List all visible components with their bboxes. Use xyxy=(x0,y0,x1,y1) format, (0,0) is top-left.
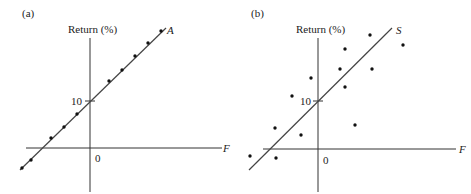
data-point xyxy=(20,166,23,169)
data-point xyxy=(49,136,52,139)
data-point xyxy=(401,43,404,46)
data-point xyxy=(368,33,371,36)
data-point xyxy=(159,29,162,32)
chart-canvas: (a) Return (%) 10 0 F A (b) Return (%) 1… xyxy=(0,0,471,194)
panel-a-ytick-label: 10 xyxy=(71,95,83,107)
data-point xyxy=(107,79,110,82)
panel-a-fit-line xyxy=(20,28,166,170)
data-point xyxy=(75,112,78,115)
data-point xyxy=(133,54,136,57)
data-point xyxy=(290,94,293,97)
data-point xyxy=(146,41,149,44)
data-point xyxy=(309,76,312,79)
data-point xyxy=(343,47,346,50)
data-point xyxy=(299,133,302,136)
data-point xyxy=(353,123,356,126)
panel-b-origin-label: 0 xyxy=(323,154,329,166)
panel-a-line-label: A xyxy=(166,24,174,36)
data-point xyxy=(120,68,123,71)
panel-b-ylabel: Return (%) xyxy=(296,23,346,36)
panel-a-origin-label: 0 xyxy=(95,152,101,164)
data-point xyxy=(29,158,32,161)
panel-b-points xyxy=(248,33,404,159)
panel-b-xlabel: F xyxy=(458,143,466,155)
panel-a: (a) Return (%) 10 0 F A xyxy=(20,7,230,192)
panel-b-ytick-label: 10 xyxy=(300,95,312,107)
data-point xyxy=(62,125,65,128)
panel-a-ylabel: Return (%) xyxy=(68,23,118,36)
data-point xyxy=(248,154,251,157)
panel-b-label: (b) xyxy=(251,7,264,20)
panel-b-line-label: S xyxy=(396,24,402,36)
data-point xyxy=(370,67,373,70)
panel-a-label: (a) xyxy=(22,7,35,20)
data-point xyxy=(274,156,277,159)
data-point xyxy=(343,85,346,88)
data-point xyxy=(273,126,276,129)
panel-b: (b) Return (%) 10 0 F S xyxy=(248,7,466,192)
data-point xyxy=(338,67,341,70)
panel-a-xlabel: F xyxy=(222,142,230,154)
